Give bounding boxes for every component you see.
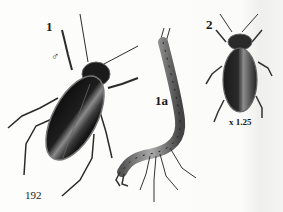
- beetle-illustrations: [0, 0, 283, 212]
- page-number: 192: [25, 190, 42, 201]
- figure-label-1: 1: [46, 20, 53, 33]
- male-symbol: ♂: [51, 51, 59, 62]
- beetle-figure-2: [206, 14, 272, 122]
- illustration-plate: 1 ♂ 1a 2 x 1.25 192: [0, 0, 283, 212]
- figure-label-1a: 1a: [155, 94, 168, 107]
- larva-figure-1a: [116, 28, 196, 202]
- scale-label: x 1.25: [229, 118, 252, 127]
- figure-label-2: 2: [206, 18, 213, 31]
